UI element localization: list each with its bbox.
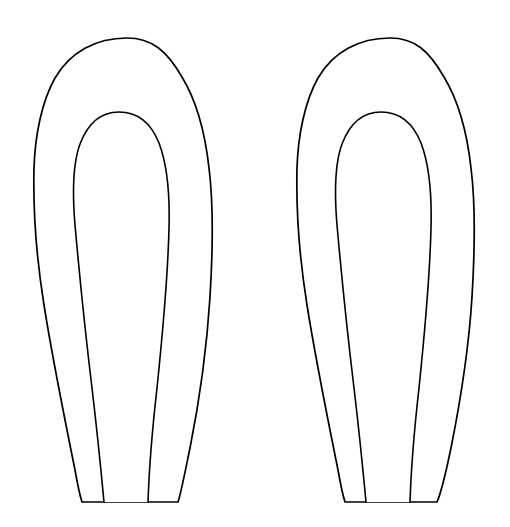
shape-outline-svg	[0, 0, 510, 527]
drawing-canvas	[0, 0, 510, 527]
